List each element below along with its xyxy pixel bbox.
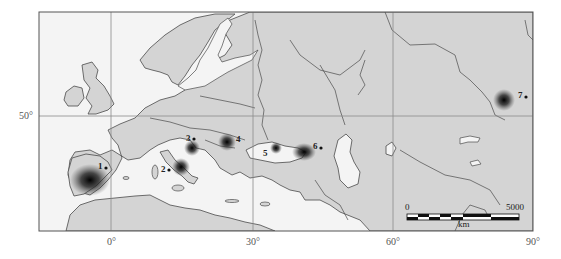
hotspot-7 [493,89,515,111]
scale-start-label: 0 [405,202,410,212]
hotspot-5 [270,142,282,154]
site-label-7: 7 [518,90,523,100]
site-dot-2 [167,168,170,171]
site-label-1: 1 [98,161,103,171]
site-label-4: 4 [236,134,241,144]
lon-label-0: 0° [107,236,116,247]
lon-label-60: 60° [386,236,400,247]
site-label-6: 6 [313,141,318,151]
site-dot-7 [524,95,527,98]
lon-label-90: 90° [526,236,540,247]
site-label-5: 5 [263,148,268,158]
scale-end-label: 5000 [506,202,524,212]
scale-unit-label: km [458,219,470,229]
site-dot-6 [319,146,322,149]
map-canvas [0,0,561,259]
hotspot-2 [172,158,190,176]
corsica-sardinia [152,165,158,179]
cyprus [260,202,270,206]
site-label-2: 2 [161,164,166,174]
site-dot-3 [192,137,195,140]
crete [225,200,239,203]
site-dot-1 [104,166,107,169]
hotspot-4 [218,133,236,151]
balearic [123,177,129,180]
site-label-3: 3 [186,133,191,143]
lat-label-50: 50° [19,110,33,121]
lon-label-30: 30° [246,236,260,247]
hotspot-1 [70,164,110,196]
sicily [172,185,184,191]
